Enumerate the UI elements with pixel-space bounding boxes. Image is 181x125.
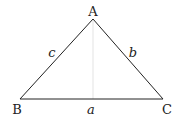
side-label-b: b	[129, 45, 137, 60]
vertex-label-b: B	[12, 102, 22, 117]
triangle-diagram: A B C a b c	[0, 0, 181, 125]
vertex-label-a: A	[87, 4, 98, 19]
side-label-a: a	[87, 102, 95, 117]
triangle-shape	[20, 19, 163, 99]
vertex-label-c: C	[162, 102, 172, 117]
side-label-c: c	[48, 45, 56, 60]
